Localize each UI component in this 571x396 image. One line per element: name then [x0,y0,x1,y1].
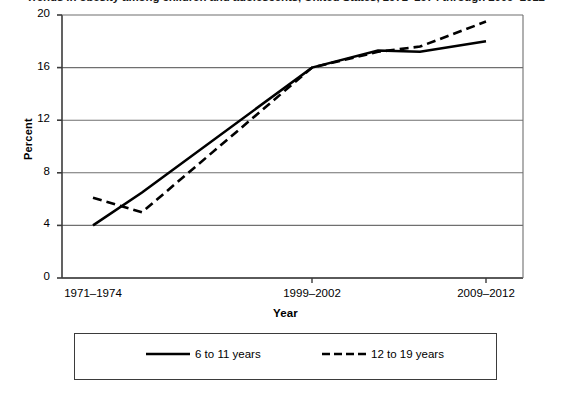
chart-figure: Trends in obesity among children and ado… [0,0,571,396]
data-series-layer [93,22,486,226]
gridlines [62,68,523,278]
legend-label: 6 to 11 years [195,348,261,360]
x-axis-title: Year [0,307,571,319]
y-axis-title: Percent [22,118,34,160]
y-tick-label: 20 [20,7,50,19]
y-tick-label: 16 [20,60,50,72]
legend-item-6-to-11-years[interactable]: 6 to 11 years [145,348,261,360]
y-tick-label: 8 [20,165,50,177]
y-tick-label: 0 [20,270,50,282]
x-tick-label: 1999–2002 [252,287,372,299]
series-line-6-to-11-years [93,41,486,225]
x-tick-label: 1971–1974 [33,287,153,299]
axis-frame [62,15,523,278]
y-tick-label: 4 [20,217,50,229]
legend-label: 12 to 19 years [371,348,444,360]
x-tick-label: 2009–2012 [426,287,546,299]
legend-swatch-solid [145,348,191,360]
legend-swatch-dashed [321,348,367,360]
chart-legend: 6 to 11 years 12 to 19 years [74,333,497,380]
legend-item-12-to-19-years[interactable]: 12 to 19 years [321,348,444,360]
